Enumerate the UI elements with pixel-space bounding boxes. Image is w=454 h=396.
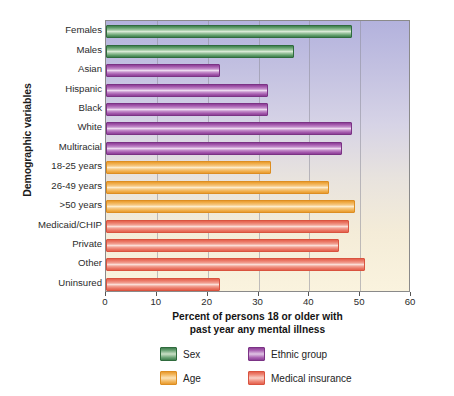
bar bbox=[106, 103, 268, 116]
category-label: Medicaid/CHIP bbox=[22, 219, 102, 230]
x-tick-label: 20 bbox=[201, 296, 212, 307]
bar bbox=[106, 142, 342, 155]
legend-swatch-icon bbox=[248, 371, 265, 385]
category-label: Private bbox=[22, 238, 102, 249]
legend-label: Ethnic group bbox=[271, 349, 327, 360]
category-label: Hispanic bbox=[22, 83, 102, 94]
bar bbox=[106, 258, 365, 271]
bar bbox=[106, 64, 220, 77]
x-tick-label: 50 bbox=[354, 296, 365, 307]
category-label: 18-25 years bbox=[22, 160, 102, 171]
bar bbox=[106, 181, 329, 194]
bar bbox=[106, 45, 294, 58]
gridline bbox=[360, 21, 361, 291]
legend-swatch-icon bbox=[160, 347, 177, 361]
legend-item[interactable]: Medical insurance bbox=[248, 371, 352, 385]
bar bbox=[106, 122, 352, 135]
x-axis-title: Percent of persons 18 or older with past… bbox=[105, 310, 410, 336]
legend-label: Age bbox=[183, 373, 201, 384]
bar bbox=[106, 84, 268, 97]
x-tick-label: 10 bbox=[150, 296, 161, 307]
legend-swatch-icon bbox=[248, 347, 265, 361]
category-label: Females bbox=[22, 24, 102, 35]
x-tick-label: 30 bbox=[252, 296, 263, 307]
x-tick-label: 0 bbox=[102, 296, 107, 307]
x-axis-title-line-1: Percent of persons 18 or older with bbox=[105, 310, 410, 323]
x-tick-label: 60 bbox=[405, 296, 416, 307]
category-label: >50 years bbox=[22, 199, 102, 210]
category-label: Black bbox=[22, 102, 102, 113]
legend-item[interactable]: Age bbox=[160, 371, 201, 385]
bar bbox=[106, 161, 271, 174]
plot-area bbox=[105, 20, 410, 292]
category-label: White bbox=[22, 121, 102, 132]
category-label: Asian bbox=[22, 63, 102, 74]
bar bbox=[106, 239, 339, 252]
x-axis-ticks: 0102030405060 bbox=[105, 292, 410, 308]
bar bbox=[106, 25, 352, 38]
x-tick-label: 40 bbox=[303, 296, 314, 307]
x-axis-title-line-2: past year any mental illness bbox=[105, 323, 410, 336]
category-label: Multiracial bbox=[22, 141, 102, 152]
bar bbox=[106, 200, 355, 213]
legend-label: Medical insurance bbox=[271, 373, 352, 384]
category-label-list: FemalesMalesAsianHispanicBlackWhiteMulti… bbox=[22, 20, 102, 292]
category-label: 26-49 years bbox=[22, 180, 102, 191]
legend-label: Sex bbox=[183, 349, 200, 360]
category-label: Males bbox=[22, 44, 102, 55]
bar bbox=[106, 278, 220, 291]
category-label: Uninsured bbox=[22, 277, 102, 288]
legend-item[interactable]: Sex bbox=[160, 347, 200, 361]
legend-item[interactable]: Ethnic group bbox=[248, 347, 327, 361]
legend-swatch-icon bbox=[160, 371, 177, 385]
category-label: Other bbox=[22, 257, 102, 268]
legend: SexEthnic groupAgeMedical insurance bbox=[160, 347, 410, 393]
bar-chart-figure: Demographic variables FemalesMalesAsianH… bbox=[0, 0, 454, 396]
bar bbox=[106, 220, 349, 233]
